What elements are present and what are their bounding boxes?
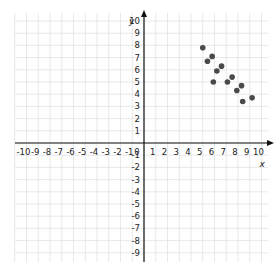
data-point bbox=[234, 88, 240, 94]
scatter-plot: -10-9-8-7-6-5-4-3-2-1012345678910 109876… bbox=[0, 0, 280, 278]
x-tick-label: 2 bbox=[162, 147, 167, 157]
data-point bbox=[249, 95, 255, 101]
grid-lines bbox=[15, 13, 268, 262]
x-tick-label: 8 bbox=[232, 147, 237, 157]
data-point bbox=[239, 83, 245, 89]
x-tick-label: 3 bbox=[174, 147, 179, 157]
data-points bbox=[200, 45, 255, 104]
data-point bbox=[240, 99, 246, 105]
y-axis-label: y bbox=[128, 16, 135, 26]
y-tick-label: -8 bbox=[132, 236, 140, 246]
x-tick-label: -7 bbox=[55, 147, 63, 157]
y-tick-label: 7 bbox=[135, 53, 140, 63]
y-tick-label: -1 bbox=[132, 150, 140, 160]
x-axis-arrow-icon bbox=[267, 140, 274, 146]
y-axis-arrow-icon bbox=[141, 10, 147, 17]
x-tick-label: 5 bbox=[197, 147, 202, 157]
data-point bbox=[200, 45, 206, 51]
y-tick-label: -7 bbox=[132, 223, 140, 233]
x-tick-label: -9 bbox=[31, 147, 39, 157]
data-point bbox=[219, 63, 225, 69]
y-tick-label: 4 bbox=[135, 89, 140, 99]
y-tick-label: 9 bbox=[135, 28, 140, 38]
x-tick-label: -6 bbox=[66, 147, 74, 157]
y-tick-label: -2 bbox=[132, 162, 140, 172]
y-tick-label: -5 bbox=[132, 199, 140, 209]
x-tick-label: -3 bbox=[102, 147, 110, 157]
y-tick-labels: 10987654321-1-2-3-4-5-6-7-8-9 bbox=[129, 16, 140, 258]
x-tick-label: -8 bbox=[43, 147, 51, 157]
x-tick-label: 4 bbox=[185, 147, 190, 157]
data-point bbox=[209, 54, 215, 60]
x-tick-label: 1 bbox=[150, 147, 155, 157]
x-tick-label: -5 bbox=[78, 147, 86, 157]
data-point bbox=[211, 79, 217, 85]
data-point bbox=[225, 79, 231, 85]
y-tick-label: 5 bbox=[135, 77, 140, 87]
y-tick-label: -4 bbox=[132, 187, 140, 197]
y-tick-label: 1 bbox=[135, 126, 140, 136]
y-tick-label: -9 bbox=[132, 248, 140, 258]
x-tick-label: -10 bbox=[17, 147, 31, 157]
x-axis-label: x bbox=[259, 159, 266, 169]
data-point bbox=[214, 68, 220, 74]
data-point bbox=[229, 74, 235, 80]
x-tick-label: 7 bbox=[221, 147, 226, 157]
y-tick-label: -6 bbox=[132, 211, 140, 221]
x-tick-label: -2 bbox=[113, 147, 121, 157]
x-tick-label: 9 bbox=[244, 147, 249, 157]
y-tick-label: 6 bbox=[135, 65, 140, 75]
x-tick-label: 6 bbox=[209, 147, 214, 157]
y-tick-label: 3 bbox=[135, 101, 140, 111]
axes bbox=[15, 10, 274, 262]
data-point bbox=[205, 58, 211, 64]
x-tick-label: 10 bbox=[253, 147, 264, 157]
y-tick-label: -3 bbox=[132, 175, 140, 185]
y-tick-label: 2 bbox=[135, 114, 140, 124]
x-tick-label: -4 bbox=[90, 147, 98, 157]
y-tick-label: 8 bbox=[135, 40, 140, 50]
